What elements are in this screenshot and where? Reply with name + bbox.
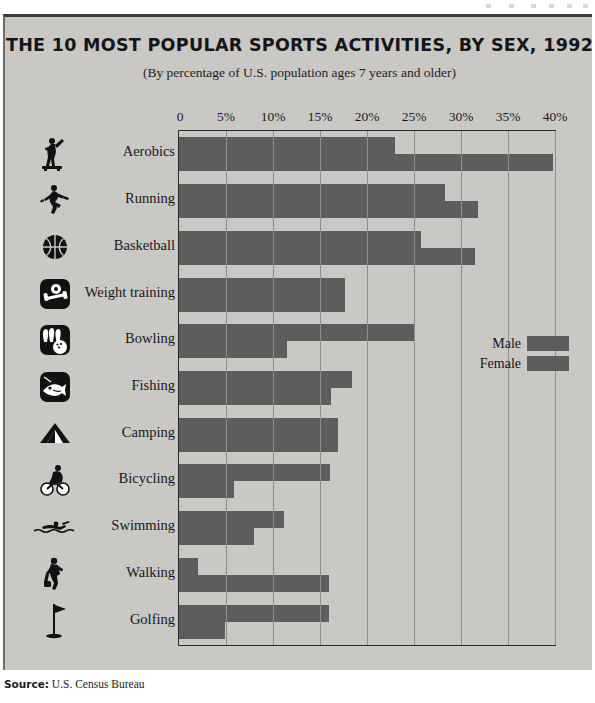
legend-label-female: Female: [480, 356, 521, 372]
top-mark: [549, 4, 554, 8]
legend-swatch-male: [527, 336, 569, 351]
x-tick-label: 10%: [261, 109, 286, 125]
x-tick-label: 25%: [402, 109, 427, 125]
x-tick-label: 35%: [496, 109, 521, 125]
chart-title: THE 10 MOST POPULAR SPORTS ACTIVITIES, B…: [5, 35, 594, 55]
category-label: Swimming: [35, 517, 175, 534]
bar-female: [179, 388, 331, 405]
top-mark: [531, 4, 536, 8]
bar-male: [179, 464, 330, 481]
category-label: Weight training: [35, 284, 175, 301]
bar-female: [179, 575, 329, 592]
legend-item-male: Male: [457, 335, 569, 352]
gridline: [367, 131, 368, 645]
x-axis-tick-labels: 05%10%15%20%25%30%35%40%: [179, 109, 555, 129]
bar-female: [179, 201, 478, 218]
legend-item-female: Female: [457, 355, 569, 372]
chart-panel: THE 10 MOST POPULAR SPORTS ACTIVITIES, B…: [3, 14, 592, 670]
gridline: [273, 131, 274, 645]
bar-male: [179, 231, 421, 248]
bar-male: [179, 137, 395, 154]
bar-female: [179, 435, 338, 452]
bar-male: [179, 184, 445, 201]
bar-male: [179, 511, 284, 528]
category-label: Fishing: [35, 377, 175, 394]
category-label: Running: [35, 190, 175, 207]
plot-area: 05%10%15%20%25%30%35%40%: [178, 130, 556, 646]
bar-female: [179, 622, 225, 639]
x-tick-label: 30%: [449, 109, 474, 125]
legend-label-male: Male: [492, 336, 521, 352]
bar-female: [179, 528, 254, 545]
gridline: [508, 131, 509, 645]
gridline: [461, 131, 462, 645]
poster-page: THE 10 MOST POPULAR SPORTS ACTIVITIES, B…: [0, 0, 595, 703]
category-label: Bicycling: [35, 470, 175, 487]
top-mark: [509, 4, 514, 8]
gridline: [414, 131, 415, 645]
bar-female: [179, 248, 475, 265]
source-text: U.S. Census Bureau: [52, 678, 145, 690]
bar-male: [179, 324, 415, 341]
category-label: Camping: [35, 424, 175, 441]
top-mark: [486, 4, 491, 8]
bar-male: [179, 605, 329, 622]
category-label: Golfing: [35, 611, 175, 628]
x-tick-label: 0: [177, 109, 184, 125]
x-tick-label: 40%: [543, 109, 568, 125]
page-top-strip: [0, 0, 595, 14]
category-label: Bowling: [35, 330, 175, 347]
legend: Male Female: [457, 333, 569, 377]
bar-female: [179, 341, 287, 358]
gridline: [226, 131, 227, 645]
gridline: [555, 131, 556, 645]
category-label: Walking: [35, 564, 175, 581]
source-note: Source: U.S. Census Bureau: [4, 678, 145, 690]
bar-male: [179, 558, 198, 575]
bar-male: [179, 418, 338, 435]
top-mark: [567, 4, 572, 8]
category-label-column: AerobicsRunningBasketballWeight training…: [27, 130, 175, 644]
gridline: [320, 131, 321, 645]
category-label: Aerobics: [35, 143, 175, 160]
source-label: Source:: [4, 678, 49, 690]
x-tick-label: 20%: [355, 109, 380, 125]
x-tick-label: 5%: [217, 109, 235, 125]
category-label: Basketball: [35, 237, 175, 254]
legend-swatch-female: [527, 356, 569, 371]
chart-subtitle: (By percentage of U.S. population ages 7…: [5, 65, 594, 81]
x-tick-label: 15%: [308, 109, 333, 125]
bar-male: [179, 371, 352, 388]
top-mark: [583, 4, 588, 8]
